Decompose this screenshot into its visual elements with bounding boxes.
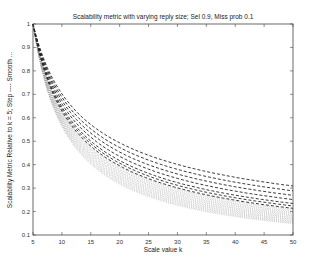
curve (33, 24, 293, 195)
svg-text:0.5: 0.5 (22, 138, 31, 144)
x-axis-label: Scale value k (144, 246, 183, 253)
svg-text:0.2: 0.2 (22, 209, 31, 215)
svg-text:0.3: 0.3 (22, 185, 31, 191)
y-axis-ticks: 0.10.20.30.40.50.60.70.80.91 (22, 21, 293, 238)
svg-text:50: 50 (290, 239, 297, 245)
curve (33, 24, 293, 224)
svg-text:0.6: 0.6 (22, 115, 31, 121)
svg-text:35: 35 (203, 239, 210, 245)
curve (33, 24, 293, 186)
curve (33, 24, 293, 204)
svg-text:25: 25 (145, 239, 152, 245)
svg-text:0.1: 0.1 (22, 232, 31, 238)
curve (33, 24, 293, 222)
y-axis-label: Scalability Metric Relative to k = 5; St… (6, 52, 14, 208)
svg-text:30: 30 (174, 239, 181, 245)
curve-group (33, 24, 293, 224)
x-axis-ticks: 5101520253035404550 (31, 24, 297, 245)
curve (33, 24, 293, 213)
svg-text:45: 45 (261, 239, 268, 245)
scalability-chart: Scalability metric with varying reply si… (0, 0, 312, 262)
svg-text:0.8: 0.8 (22, 68, 31, 74)
svg-text:0.9: 0.9 (22, 44, 31, 50)
curve (33, 24, 293, 217)
svg-text:40: 40 (232, 239, 239, 245)
chart-title: Scalability metric with varying reply si… (73, 13, 254, 21)
svg-text:10: 10 (59, 239, 66, 245)
svg-text:5: 5 (31, 239, 35, 245)
curve (33, 24, 293, 216)
curve (33, 24, 293, 200)
curve (33, 24, 293, 210)
svg-text:20: 20 (116, 239, 123, 245)
curve (33, 24, 293, 221)
svg-text:0.7: 0.7 (22, 91, 31, 97)
svg-text:1: 1 (27, 21, 31, 27)
svg-text:0.4: 0.4 (22, 162, 31, 168)
svg-text:15: 15 (87, 239, 94, 245)
